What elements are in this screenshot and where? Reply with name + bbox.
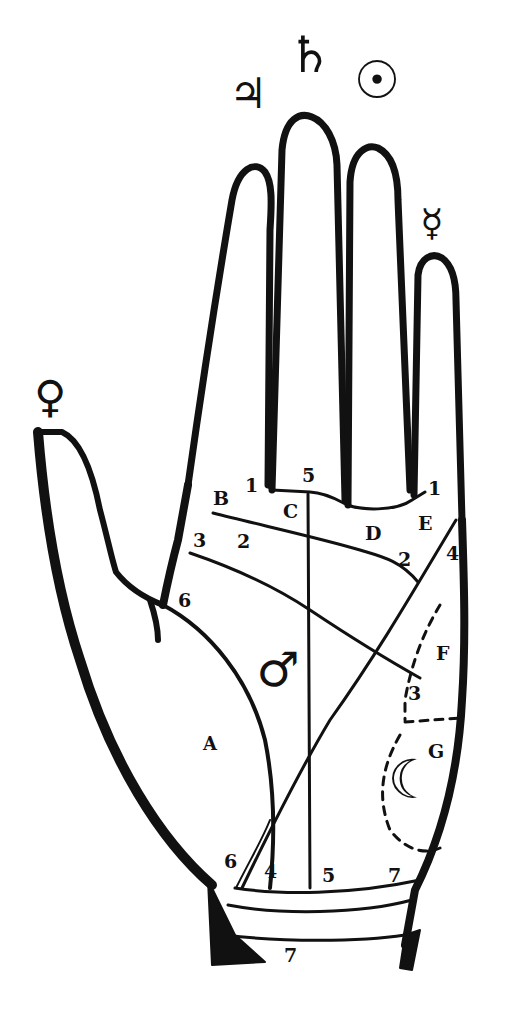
mercury-symbol: ☿	[420, 201, 443, 245]
line-number-3-left: 3	[193, 529, 206, 551]
region-e-label: E	[418, 512, 432, 534]
line-number-1-left: 1	[245, 474, 258, 496]
line-number-4-top: 4	[446, 542, 459, 564]
fate-line	[308, 494, 310, 888]
palmistry-diagram: ♃ ♄ ☉ ☿ ♀ ♂ ☾ A B C D E F G 1 1 2 2 3 3 …	[0, 0, 505, 1015]
ring-finger-outline	[348, 147, 410, 505]
line-number-4-bottom: 4	[264, 860, 277, 882]
region-g-label: G	[428, 740, 444, 762]
line-number-2-left: 2	[237, 530, 250, 552]
mars-symbol: ♂	[256, 641, 299, 697]
line-number-5-bottom: 5	[322, 864, 335, 886]
palm-left-edge-upper	[163, 485, 188, 605]
line-number-3-right: 3	[408, 682, 421, 704]
wrist-line-3	[225, 935, 405, 940]
venus-symbol: ♀	[34, 371, 66, 422]
jupiter-symbol: ♃	[229, 69, 267, 118]
sun-symbol: ☉	[354, 50, 401, 110]
thumb-crease	[150, 600, 158, 640]
wrist-line-2	[228, 900, 412, 912]
line-number-6-top: 6	[178, 589, 191, 611]
line-number-1-right: 1	[428, 477, 441, 499]
region-c-label: C	[283, 500, 298, 522]
middle-finger-outline	[272, 115, 345, 500]
region-b-label: B	[213, 487, 229, 509]
line-number-2-right: 2	[398, 548, 411, 570]
index-finger-outline	[188, 167, 271, 485]
region-a-label: A	[202, 733, 218, 754]
mount-g-top-dashed	[405, 718, 460, 722]
region-f-label: F	[436, 642, 450, 664]
line-number-7-bottom: 7	[284, 944, 297, 966]
line-number-5-top: 5	[302, 464, 315, 486]
saturn-symbol: ♄	[288, 26, 333, 84]
line-number-6-bottom: 6	[224, 850, 237, 872]
region-d-label: D	[365, 522, 381, 544]
wrist-left-block	[208, 880, 265, 965]
line-number-7-right: 7	[388, 864, 401, 886]
